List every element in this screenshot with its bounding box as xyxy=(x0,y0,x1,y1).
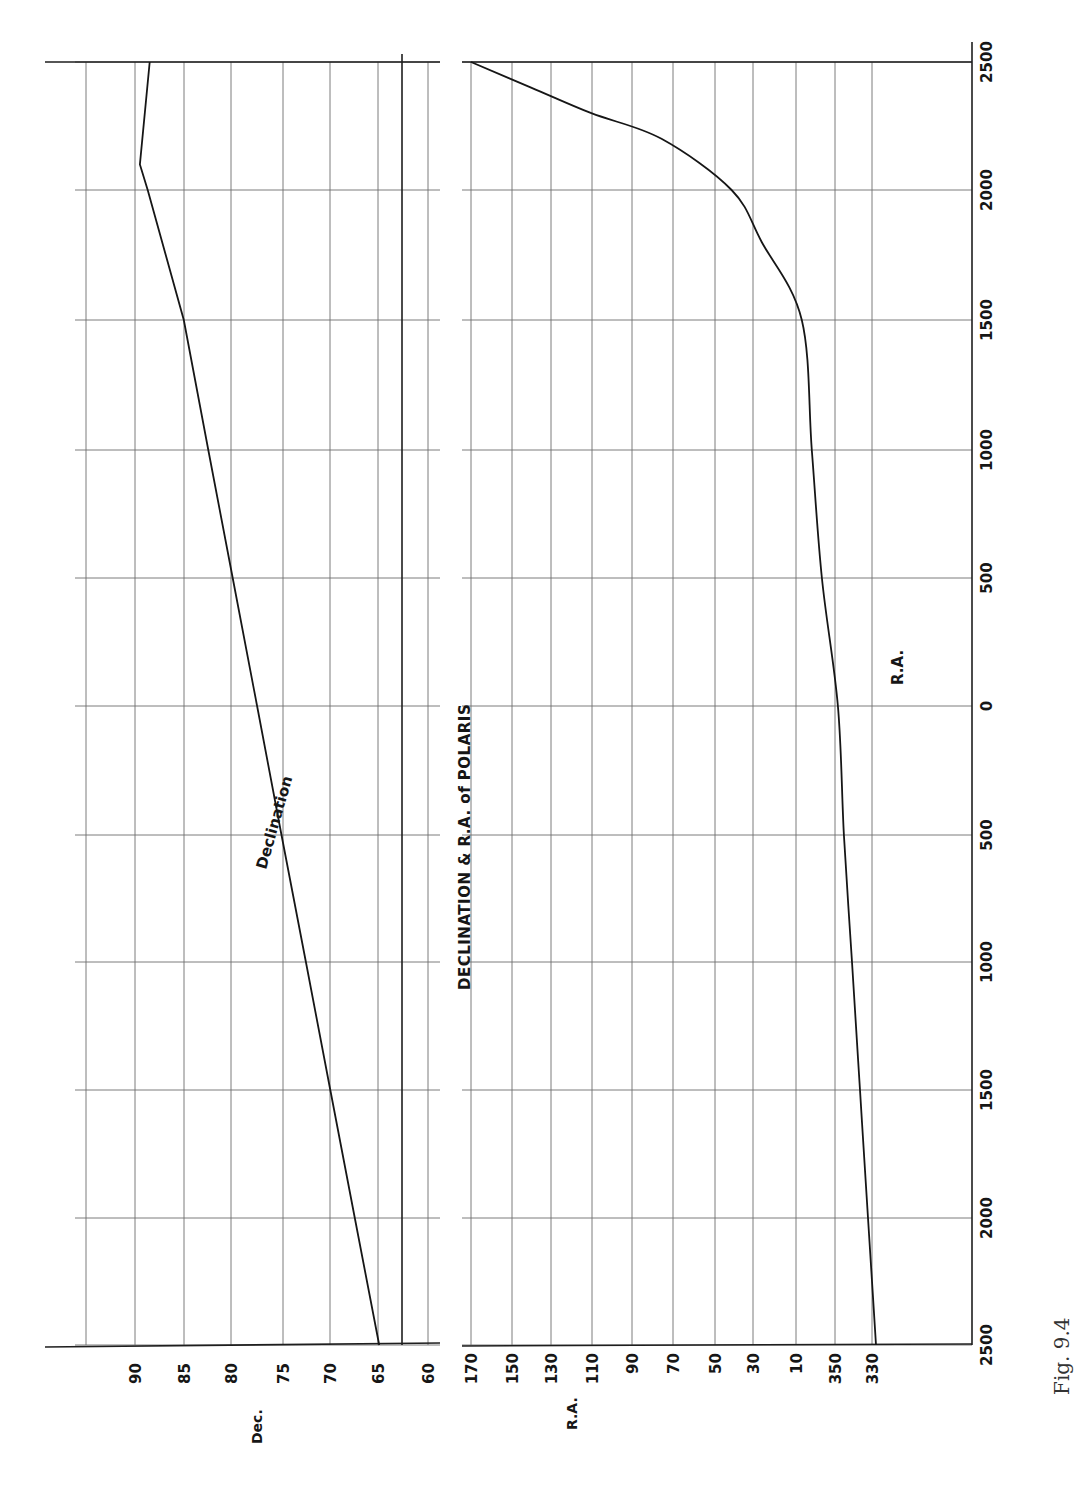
year-tick-label: 2500 xyxy=(978,41,996,83)
ra-annotation: R.A. xyxy=(889,650,907,685)
year-axis-labels: 250020001500100050005001000150020002500 xyxy=(978,41,996,1366)
year-tick-label: 0 xyxy=(978,701,996,711)
ra-tick-label: 130 xyxy=(543,1353,561,1384)
year-tick-label: 2500 xyxy=(978,1324,996,1366)
year-tick-label: 2000 xyxy=(978,169,996,211)
ra-tick-label: 330 xyxy=(864,1353,882,1384)
dec-tick-label: 75 xyxy=(275,1363,293,1384)
dec-tick-label: 70 xyxy=(322,1363,340,1384)
year-tick-label: 500 xyxy=(978,819,996,850)
year-tick-label: 2000 xyxy=(978,1197,996,1239)
chart-title: DECLINATION & R.A. of POLARIS xyxy=(456,704,474,990)
dec-tick-label: 80 xyxy=(223,1363,241,1384)
figure-caption: Fig. 9.4 xyxy=(1050,1317,1074,1395)
dec-tick-label: 60 xyxy=(420,1363,438,1384)
ra-tick-label: 110 xyxy=(584,1353,602,1384)
declination-grid xyxy=(75,54,440,1345)
dec-tick-label: 90 xyxy=(127,1363,145,1384)
ra-tick-label: 50 xyxy=(707,1353,725,1374)
dec-tick-label: 65 xyxy=(370,1363,388,1384)
year-tick-label: 500 xyxy=(978,562,996,593)
declination-annotation: Declination xyxy=(253,774,297,871)
ra-grid xyxy=(462,62,972,1345)
ra-tick-label: 70 xyxy=(665,1353,683,1374)
year-tick-label: 1500 xyxy=(978,1069,996,1111)
year-tick-label: 1500 xyxy=(978,299,996,341)
dec-axis-labels: 90858075706560 xyxy=(127,1363,438,1384)
ra-tick-label: 170 xyxy=(463,1353,481,1384)
declination-curve xyxy=(140,62,379,1345)
year-tick-label: 1000 xyxy=(978,429,996,471)
ra-tick-label: 350 xyxy=(827,1353,845,1384)
ra-tick-label: 90 xyxy=(624,1353,642,1374)
ra-tick-label: 150 xyxy=(504,1353,522,1384)
ra-tick-label: 10 xyxy=(788,1353,806,1374)
dec-axis-title: Dec. xyxy=(249,1409,265,1444)
dec-tick-label: 85 xyxy=(176,1363,194,1384)
ra-axis-labels: 1701501301109070503010350330 xyxy=(463,1353,882,1384)
year-tick-label: 1000 xyxy=(978,941,996,983)
ra-curve xyxy=(471,62,876,1345)
ra-tick-label: 30 xyxy=(745,1353,763,1374)
ra-axis-title: R.A. xyxy=(564,1397,580,1430)
polaris-chart: 250020001500100050005001000150020002500 … xyxy=(0,0,1085,1489)
